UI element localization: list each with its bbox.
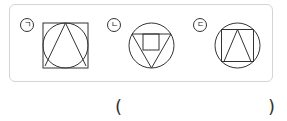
figure-digeut xyxy=(214,22,262,70)
label-digeut: ㄷ xyxy=(193,18,207,32)
label-giyeok: ㄱ xyxy=(20,18,34,32)
answer-open-paren: ( xyxy=(115,96,122,117)
answer-close-paren: ) xyxy=(268,96,275,117)
figure-nieun xyxy=(128,22,176,70)
label-nieun: ㄴ xyxy=(107,18,121,32)
figure-giyeok xyxy=(42,22,90,70)
